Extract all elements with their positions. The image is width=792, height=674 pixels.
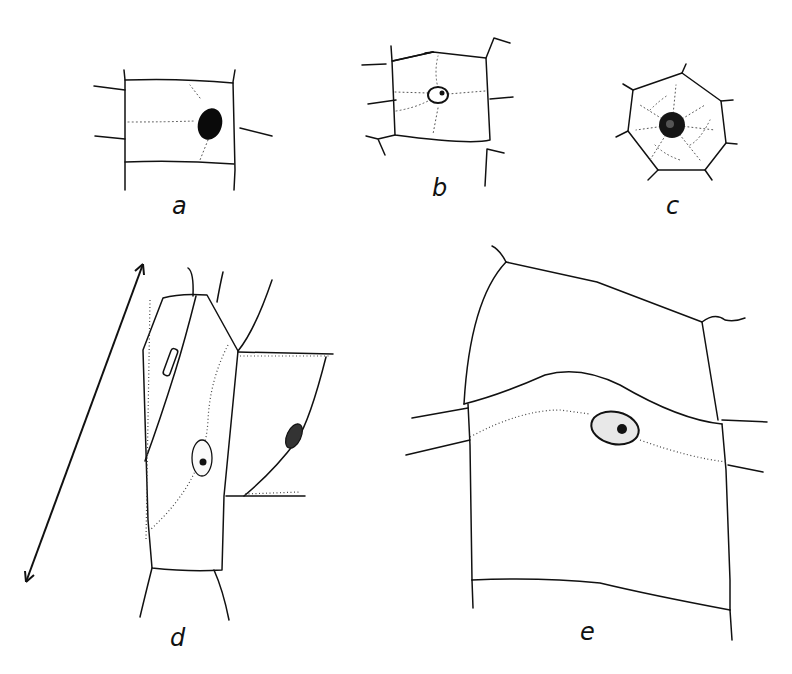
panel-label-b: b — [432, 174, 447, 202]
nucleus-d2-icon — [192, 440, 212, 476]
panel-c: c — [616, 64, 737, 220]
panel-label-d: d — [170, 624, 186, 652]
nucleus-d1-icon — [162, 348, 178, 377]
panel-label-c: c — [666, 192, 679, 220]
nucleus-e-icon — [588, 407, 642, 448]
nucleus-b-icon — [428, 87, 448, 103]
panel-b: b — [362, 38, 513, 202]
panel-e: e — [406, 246, 767, 646]
panel-d: d — [25, 264, 333, 652]
panel-label-e: e — [580, 618, 595, 646]
double-arrow-icon — [25, 264, 144, 582]
nucleus-d3-icon — [282, 421, 306, 450]
panel-a: a — [94, 70, 272, 220]
nucleus-a-icon — [194, 105, 225, 142]
cell-diagram-figure: a b c — [0, 0, 792, 674]
panel-label-a: a — [172, 192, 187, 220]
